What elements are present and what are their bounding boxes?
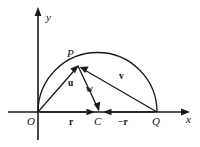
- vector-label-r: r: [69, 118, 73, 128]
- vector-r: [40, 109, 95, 116]
- point-label-C: C: [94, 116, 101, 127]
- vector-label-u: u: [68, 79, 73, 89]
- point-label-O: O: [27, 116, 35, 127]
- vector-u: [38, 65, 79, 112]
- vector-diagram-figure: O P C Q y x u w v r −r: [0, 0, 200, 147]
- vector-label-v: v: [119, 72, 124, 82]
- vector-w-arrowhead: [94, 102, 100, 112]
- point-label-P: P: [67, 48, 74, 59]
- y-axis-arrowhead: [35, 7, 42, 16]
- vector-label-minus-r: −r: [118, 118, 128, 128]
- vector-label-w: w: [86, 85, 93, 95]
- vector-minus-r-arrowhead: [103, 109, 112, 116]
- y-axis: [35, 7, 42, 140]
- vector-u-line: [38, 71, 74, 113]
- y-axis-label: y: [46, 12, 51, 23]
- vector-minus-r: [103, 109, 155, 116]
- x-axis-label: x: [186, 114, 191, 125]
- point-label-Q: Q: [152, 116, 160, 127]
